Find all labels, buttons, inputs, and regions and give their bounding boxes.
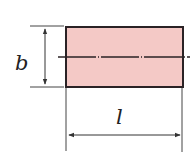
rectangle-dimension-diagram: b l xyxy=(0,0,195,168)
label-l: l xyxy=(116,105,123,129)
label-b: b xyxy=(15,51,28,75)
